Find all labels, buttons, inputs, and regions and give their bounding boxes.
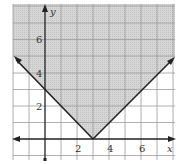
y-tick-label-4: 4: [36, 68, 42, 79]
y-tick-label-6: 6: [36, 34, 42, 45]
x-axis-label: x: [167, 143, 173, 154]
y-axis-down-end: [44, 158, 47, 161]
x-tick-label-6: 6: [139, 143, 145, 154]
x-axis-right-arrow: [168, 136, 176, 142]
x-tick-label-2: 2: [75, 143, 81, 154]
y-tick-label-2: 2: [36, 101, 42, 112]
y-axis-label: y: [49, 6, 56, 17]
x-tick-label-4: 4: [107, 143, 113, 154]
inequality-graph: y x 6 4 2 2 4 6: [0, 0, 187, 164]
